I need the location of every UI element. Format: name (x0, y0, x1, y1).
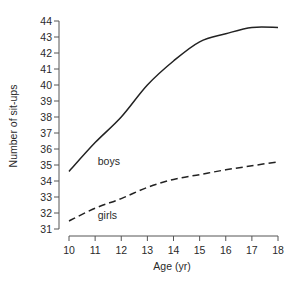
line-chart: 3132333435363738394041424344 10111213141… (0, 0, 299, 291)
x-axis-title: Age (yr) (153, 260, 190, 272)
y-tick-label: 40 (40, 79, 52, 91)
y-tick-label: 44 (40, 15, 52, 27)
x-tick-label: 14 (168, 244, 180, 256)
x-tick-label: 12 (115, 244, 127, 256)
y-tick-label: 38 (40, 111, 52, 123)
y-tick-label: 32 (40, 207, 52, 219)
y-tick-label: 39 (40, 95, 52, 107)
annotation-girls: girls (98, 209, 117, 221)
x-tick-label: 13 (142, 244, 154, 256)
x-tick-label: 10 (63, 244, 75, 256)
y-axis: 3132333435363738394041424344 (40, 15, 59, 235)
x-tick-label: 17 (246, 244, 258, 256)
y-tick-label: 35 (40, 159, 52, 171)
series-line-boys (69, 27, 278, 171)
y-tick-label: 42 (40, 47, 52, 59)
x-tick-label: 15 (194, 244, 206, 256)
y-tick-label: 37 (40, 127, 52, 139)
series-group (69, 27, 278, 221)
annotation-boys: boys (98, 155, 120, 167)
y-tick-label: 36 (40, 143, 52, 155)
y-tick-label: 34 (40, 175, 52, 187)
x-tick-label: 18 (272, 244, 284, 256)
y-tick-label: 41 (40, 63, 52, 75)
y-axis-title: Number of sit-ups (7, 85, 19, 168)
y-tick-label: 43 (40, 31, 52, 43)
annotations: boysgirls (98, 155, 120, 221)
y-tick-label: 33 (40, 191, 52, 203)
y-tick-label: 31 (40, 223, 52, 235)
x-tick-label: 11 (90, 244, 101, 256)
x-axis: 101112131415161718 (63, 236, 284, 256)
x-tick-label: 16 (220, 244, 232, 256)
